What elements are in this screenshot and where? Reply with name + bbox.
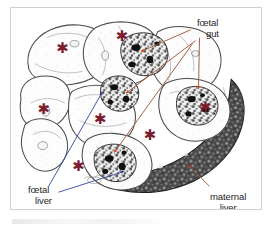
asterisk-marker: ✱ [144, 126, 156, 144]
liver-vessel-lumen-2 [183, 153, 188, 156]
label-foetal-gut: fœtal gut [197, 18, 219, 39]
histology-cross-section-illustration: ✱ ✱ ✱ ✱ ✱ ✱ ✱ [11, 8, 261, 209]
label-foetal-liver-line1: fœtal [28, 185, 52, 196]
label-foetal-liver-line2: liver [35, 196, 52, 207]
lumen-lower-left [38, 142, 48, 150]
label-foetal-liver: fœtal liver [28, 185, 52, 206]
figure-root: ✱ ✱ ✱ ✱ ✱ ✱ ✱ fœtal gut fœtal liver mate… [0, 0, 274, 229]
figure-frame: ✱ ✱ ✱ ✱ ✱ ✱ ✱ fœtal gut fœtal liver mate… [10, 7, 262, 210]
asterisk-marker: ✱ [116, 27, 128, 45]
label-maternal-liver: maternal liver [210, 192, 246, 210]
label-maternal-liver-line1: maternal [210, 192, 246, 203]
asterisk-marker: ✱ [199, 98, 211, 116]
lumen-upper-left [70, 40, 79, 46]
label-foetal-gut-line1: fœtal [197, 18, 219, 29]
gut-patch-right [176, 86, 217, 125]
lumen-right-upper [192, 51, 200, 57]
asterisk-marker: ✱ [56, 39, 68, 57]
label-foetal-gut-line2: gut [206, 29, 219, 40]
lumen-central-upper [102, 51, 109, 60]
asterisk-marker: ✱ [94, 110, 106, 128]
page-artifact-smudge [12, 219, 162, 224]
asterisk-marker: ✱ [72, 157, 84, 175]
asterisk-marker: ✱ [38, 100, 50, 118]
gut-patch-mid-central [101, 76, 139, 111]
label-maternal-liver-line2: liver [210, 203, 246, 211]
liver-vessel-lumen-1 [157, 164, 163, 168]
